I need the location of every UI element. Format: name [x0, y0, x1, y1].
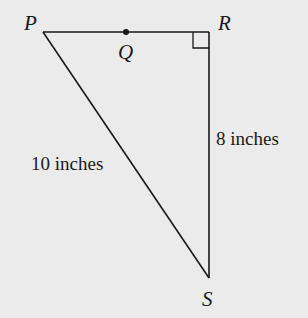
point-label-q: Q [118, 40, 133, 64]
vertex-label-r: R [217, 11, 231, 35]
triangle-diagram: P R Q S 10 inches 8 inches [0, 0, 308, 318]
vertex-label-p: P [23, 11, 37, 35]
vertex-label-s: S [202, 287, 213, 311]
point-q-dot [123, 29, 129, 35]
side-label-rs: 8 inches [216, 128, 279, 149]
side-label-ps: 10 inches [31, 153, 103, 174]
